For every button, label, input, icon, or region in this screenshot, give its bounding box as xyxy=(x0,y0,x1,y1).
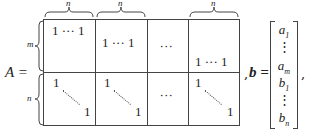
vector-b: a1 ⋮ am b1 ⋮ bn xyxy=(270,21,298,129)
vector-entry: ⋮ xyxy=(270,92,298,108)
matrix-label: A = xyxy=(5,64,28,81)
vector-entry: a1 xyxy=(270,22,298,40)
block-matrix-grid: 1 ··· 1 1 ··· 1 ··· 1 ··· 1 1 1 1 1 ··· … xyxy=(43,19,240,126)
vector-entry: ⋮ xyxy=(270,39,298,55)
row-label-1: m xyxy=(27,39,34,49)
row-divider xyxy=(44,72,239,73)
vector-entry: am xyxy=(270,58,298,76)
top-block-2: 1 ··· 1 xyxy=(102,35,135,51)
vector-label-text: b = xyxy=(249,64,269,80)
vector-label: b = xyxy=(249,64,269,81)
top-block-1: 1 ··· 1 xyxy=(52,23,85,39)
bottom-block-3: ··· xyxy=(160,90,174,103)
diagonal-dots xyxy=(113,90,130,105)
bottom-block-2-end: 1 xyxy=(135,104,142,120)
diagonal-dots xyxy=(204,90,221,105)
bottom-block-4-start: 1 xyxy=(195,75,202,91)
matrix-label-text: A = xyxy=(5,64,28,80)
diagonal-dots xyxy=(62,90,79,105)
col-label-1: n xyxy=(66,0,71,8)
col-label-3: n xyxy=(211,0,216,8)
row-label-2: n xyxy=(27,93,32,103)
top-block-4: 1 ··· 1 xyxy=(195,54,228,70)
matrix-comma: , xyxy=(244,66,248,81)
vector-comma: , xyxy=(301,66,305,81)
col-label-2: n xyxy=(118,0,123,8)
bottom-block-1-start: 1 xyxy=(53,75,60,91)
vector-entry: b1 xyxy=(270,75,298,93)
bottom-block-1-end: 1 xyxy=(84,104,91,120)
bottom-block-2-start: 1 xyxy=(104,75,111,91)
top-block-3: ··· xyxy=(160,41,174,54)
vector-entry: bn xyxy=(270,110,298,128)
bottom-block-4-end: 1 xyxy=(227,104,234,120)
